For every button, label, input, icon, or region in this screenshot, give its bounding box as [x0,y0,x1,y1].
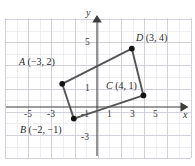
vertex-point-d [129,46,135,52]
plot-svg [0,0,195,166]
vertex-point-b [71,116,77,122]
x-axis-arrow [181,103,188,111]
coordinate-plane-figure: -5 -3 1 3 5 5 1 -1 -3 x y A (−3, 2) B (−… [0,0,195,166]
vertex-point-a [59,81,65,87]
vertex-point-c [141,93,147,99]
grid-major [5,18,191,158]
quadrilateral-abcd [62,49,143,119]
